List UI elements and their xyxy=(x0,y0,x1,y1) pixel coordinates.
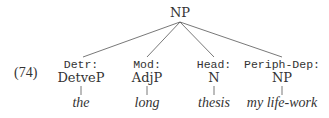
word-my-life-work: my life-work xyxy=(247,95,317,111)
edge-root-head xyxy=(180,22,214,57)
edge-root-periph xyxy=(180,22,282,57)
category-n: N xyxy=(208,70,219,85)
example-number: (74) xyxy=(14,65,37,81)
edge-root-detr xyxy=(83,22,180,57)
category-adjp: AdjP xyxy=(132,70,163,85)
word-long: long xyxy=(135,95,160,111)
category-detvep: DetveP xyxy=(57,70,104,85)
word-thesis: thesis xyxy=(198,95,230,111)
word-the: the xyxy=(72,95,89,111)
category-np: NP xyxy=(272,70,292,85)
root-node-np: NP xyxy=(170,5,190,20)
edge-root-mod xyxy=(147,22,180,57)
